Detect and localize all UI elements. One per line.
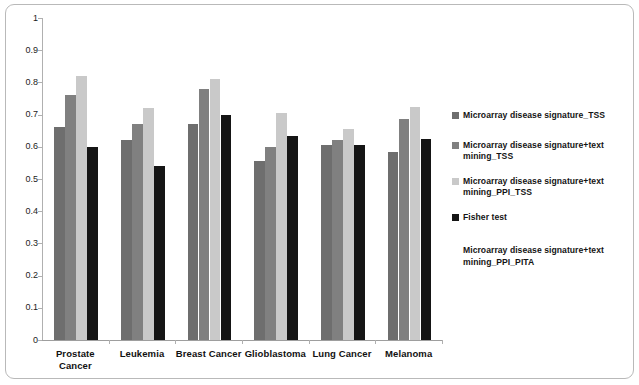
legend-swatch	[452, 247, 459, 254]
y-tick-label: 0.8	[8, 78, 38, 87]
bar	[265, 147, 276, 340]
y-tick-mark	[38, 18, 42, 19]
y-tick-mark	[38, 82, 42, 83]
bar	[76, 76, 87, 340]
y-tick-mark	[38, 243, 42, 244]
y-tick-label: 0.9	[8, 46, 38, 55]
chart-legend: Microarray disease signature_TSSMicroarr…	[452, 110, 632, 281]
y-tick-mark	[38, 50, 42, 51]
x-tick-mark	[175, 340, 176, 344]
y-axis-line	[42, 18, 43, 340]
legend-swatch	[452, 214, 459, 221]
x-category-label: Melanoma	[369, 348, 448, 360]
legend-item[interactable]: Microarray disease signature+text mining…	[452, 245, 632, 268]
legend-label: Microarray disease signature+text mining…	[463, 140, 632, 163]
category-label-line: Cancer	[36, 360, 115, 372]
bar	[143, 108, 154, 340]
y-tick-label: 0.6	[8, 142, 38, 151]
y-tick-label: 0.5	[8, 175, 38, 184]
x-tick-mark	[375, 340, 376, 344]
y-tick-label: 0.4	[8, 207, 38, 216]
y-tick-mark	[38, 179, 42, 180]
legend-swatch	[452, 112, 459, 119]
category-label-line: Melanoma	[369, 348, 448, 360]
bar	[210, 79, 221, 340]
bar	[388, 152, 399, 340]
legend-swatch	[452, 178, 459, 185]
y-tick-label: 1	[8, 14, 38, 23]
bar	[121, 140, 132, 340]
y-tick-label: 0.3	[8, 239, 38, 248]
legend-label: Microarray disease signature+text mining…	[463, 245, 632, 268]
legend-label: Microarray disease signature_TSS	[463, 110, 605, 122]
bar	[65, 95, 76, 340]
legend-label: Microarray disease signature+text mining…	[463, 176, 632, 199]
bar	[343, 129, 354, 340]
x-tick-mark	[109, 340, 110, 344]
y-tick-label: 0.1	[8, 303, 38, 312]
x-tick-mark	[242, 340, 243, 344]
y-tick-label: 0.2	[8, 271, 38, 280]
legend-label: Fisher test	[463, 212, 507, 224]
bar	[254, 161, 265, 340]
y-tick-mark	[38, 308, 42, 309]
bar	[188, 124, 199, 340]
bar	[399, 119, 410, 340]
y-tick-label: 0	[8, 336, 38, 345]
plot-area: 00.10.20.30.40.50.60.70.80.91 ProstateCa…	[42, 18, 442, 340]
legend-item[interactable]: Microarray disease signature+text mining…	[452, 176, 632, 199]
bar	[354, 145, 365, 340]
bar	[321, 145, 332, 340]
bar	[132, 124, 143, 340]
y-tick-mark	[38, 211, 42, 212]
y-tick-mark	[38, 276, 42, 277]
bar	[87, 147, 98, 340]
y-tick-mark	[38, 147, 42, 148]
y-tick-mark	[38, 340, 42, 341]
bar	[410, 107, 421, 340]
bar	[199, 89, 210, 340]
bar	[276, 113, 287, 340]
bar	[287, 136, 298, 340]
x-tick-mark	[309, 340, 310, 344]
chart-figure: 00.10.20.30.40.50.60.70.80.91 ProstateCa…	[0, 0, 639, 385]
bar	[332, 140, 343, 340]
bar	[54, 127, 65, 340]
y-tick-mark	[38, 115, 42, 116]
y-tick-label: 0.7	[8, 110, 38, 119]
legend-item[interactable]: Microarray disease signature_TSS	[452, 110, 632, 122]
bar	[154, 166, 165, 340]
x-tick-mark	[442, 340, 443, 344]
bar	[421, 139, 432, 340]
legend-swatch	[452, 142, 459, 149]
legend-item[interactable]: Fisher test	[452, 212, 632, 224]
legend-item[interactable]: Microarray disease signature+text mining…	[452, 140, 632, 163]
bar	[221, 115, 232, 340]
